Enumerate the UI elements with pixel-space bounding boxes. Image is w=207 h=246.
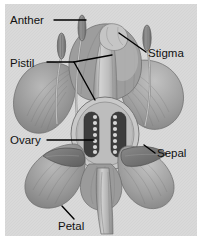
flower-illustration <box>5 4 197 236</box>
ovary-locule-left <box>84 112 99 157</box>
stigma-lobe <box>99 24 127 51</box>
flower-anatomy-figure: Anther Stigma Pistil Ovary Sepal Petal <box>0 0 207 246</box>
label-pistil: Pistil <box>10 57 34 69</box>
label-sepal: Sepal <box>157 147 186 159</box>
illustration-plate <box>5 4 197 236</box>
label-petal: Petal <box>58 220 84 232</box>
label-anther: Anther <box>10 14 44 26</box>
label-ovary: Ovary <box>10 134 41 146</box>
label-stigma: Stigma <box>148 47 184 59</box>
